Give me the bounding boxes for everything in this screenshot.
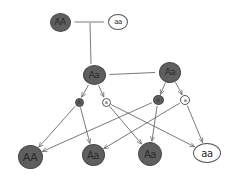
parent-node-aa: aa [108, 14, 128, 30]
genotype-label: AA [54, 17, 66, 27]
allele-label: a [105, 99, 108, 105]
f1-node-Aa-left: Aa [83, 65, 106, 85]
genotype-label: Aa [144, 148, 156, 159]
arrow-g4-o2 [104, 103, 180, 149]
f2-node-AA: AA [18, 145, 43, 169]
gamete-A-left: A [75, 98, 84, 107]
genotype-label: AA [23, 150, 37, 163]
arrow-g3-o3 [152, 106, 157, 141]
gamete-a-right: a [180, 95, 190, 105]
arrow-g4-o4 [187, 106, 202, 143]
arrow-f1b-g4 [175, 82, 182, 94]
gamete-a-left: a [102, 98, 111, 107]
genotype-label: Aa [87, 149, 99, 160]
genotype-label: Aa [89, 70, 100, 80]
allele-label: A [157, 97, 160, 103]
inheritance-diagram: AA aa Aa Aa A a A a AA Aa Aa aa [0, 0, 233, 181]
arrow-f1a-g1 [82, 85, 89, 97]
gamete-A-right: A [153, 95, 164, 105]
arrow-g1-o1 [39, 106, 76, 147]
f2-node-aa: aa [193, 143, 221, 163]
cross-line [109, 72, 155, 74]
parent-node-AA: AA [50, 13, 71, 32]
arrow-g1-o2 [80, 107, 90, 143]
genotype-label: aa [114, 18, 122, 26]
allele-label: a [184, 97, 187, 103]
descent-line [90, 23, 91, 64]
arrow-f1b-g3 [160, 83, 165, 95]
allele-label: A [78, 99, 81, 105]
arrow-f1a-g2 [99, 85, 104, 97]
f1-node-Aa-right: Aa [159, 62, 181, 83]
f2-node-Aa-2: Aa [138, 142, 162, 166]
arrow-g2-o4 [111, 104, 195, 146]
f2-node-Aa-1: Aa [82, 144, 105, 166]
genotype-label: aa [201, 147, 212, 158]
genotype-label: Aa [165, 67, 176, 77]
